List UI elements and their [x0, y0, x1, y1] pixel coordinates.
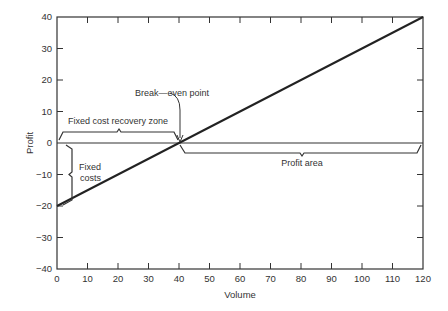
y-axis-title: Profit	[24, 132, 35, 155]
svg-text:20: 20	[41, 74, 52, 85]
svg-text:40: 40	[174, 273, 185, 284]
x-axis-title: Volume	[224, 289, 256, 300]
svg-text:110: 110	[385, 273, 400, 284]
svg-text:−20: −20	[36, 200, 52, 211]
break-even-label: Break—even point	[135, 88, 210, 98]
fixed-cost-recovery-brace	[59, 129, 178, 140]
svg-text:0: 0	[47, 137, 52, 148]
break-even-arrow	[170, 93, 180, 138]
y-tick-labels: 40 30 20 10 0 −10 −20 −30 −40	[36, 11, 52, 274]
svg-text:50: 50	[204, 273, 215, 284]
fixed-costs-label-line1: Fixed	[79, 162, 101, 172]
svg-text:−30: −30	[36, 232, 52, 243]
svg-text:60: 60	[235, 273, 246, 284]
svg-text:70: 70	[265, 273, 276, 284]
fixed-cost-recovery-label: Fixed cost recovery zone	[68, 116, 168, 126]
profit-line	[57, 17, 423, 206]
x-tick-labels: 0 10 20 30 40 50 60 70 80 90 100 110 120	[54, 273, 431, 284]
svg-text:30: 30	[41, 43, 52, 54]
svg-text:−10: −10	[36, 169, 52, 180]
fixed-costs-label-line2: costs	[80, 173, 102, 183]
profit-area-label: Profit area	[281, 158, 323, 168]
svg-text:20: 20	[113, 273, 124, 284]
svg-text:40: 40	[41, 11, 52, 22]
svg-text:100: 100	[354, 273, 370, 284]
svg-text:90: 90	[326, 273, 337, 284]
svg-text:0: 0	[54, 273, 59, 284]
break-even-chart: 0 10 20 30 40 50 60 70 80 90 100 110 120…	[0, 0, 448, 311]
svg-text:30: 30	[143, 273, 154, 284]
svg-text:10: 10	[41, 106, 52, 117]
profit-area-brace	[180, 145, 421, 156]
fixed-costs-brace	[63, 145, 72, 205]
svg-text:−40: −40	[36, 263, 52, 274]
svg-text:10: 10	[82, 273, 93, 284]
svg-text:80: 80	[296, 273, 307, 284]
svg-text:120: 120	[415, 273, 431, 284]
